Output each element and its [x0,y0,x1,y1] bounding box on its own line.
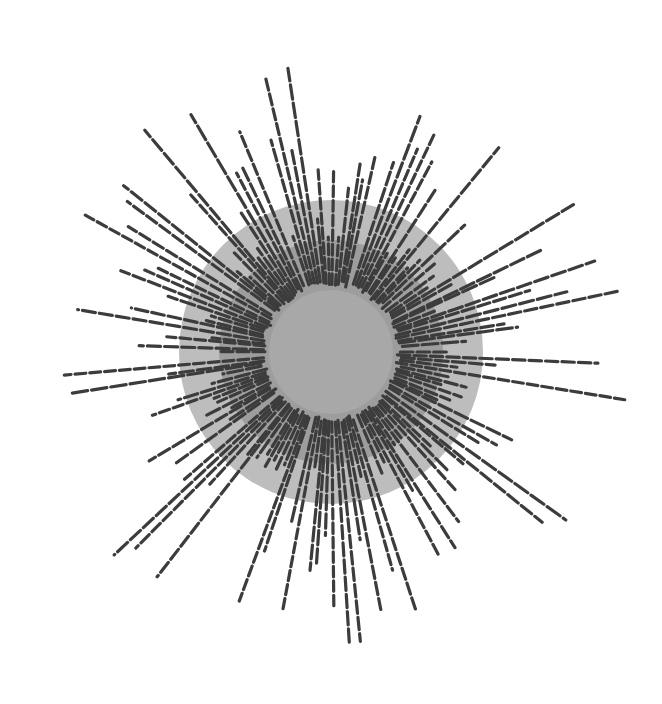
sunburst-graphic [0,0,662,704]
sunburst-figure [0,0,662,704]
inner-disc [269,290,393,414]
